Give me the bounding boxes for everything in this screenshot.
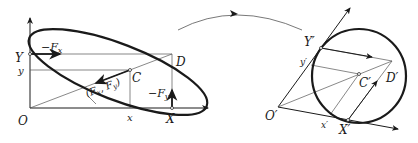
affine-ellipse-diagram: O Y y x X D C −Fx −Fy (Fx, Fy)	[0, 0, 418, 143]
label-x-prime-point: X′	[338, 123, 351, 137]
label-force-neg-fx: −Fx	[41, 41, 63, 55]
label-origin: O	[18, 114, 28, 128]
label-d-prime: D′	[385, 71, 399, 85]
label-y-prime-point: Y′	[304, 35, 315, 49]
arc-arrowhead-icon	[230, 10, 238, 17]
label-c: C	[132, 71, 141, 85]
label-x-coord: x	[127, 112, 133, 123]
label-y-coord: y	[17, 65, 24, 76]
label-force-neg-fy: −Fy	[148, 87, 170, 101]
label-x-point: X	[165, 112, 175, 126]
transform-arc-arrow	[178, 15, 302, 30]
right-figure: O′ Y′ y′ x′ X′ D′ C′	[265, 8, 406, 137]
ellipse	[19, 12, 216, 132]
left-figure: O Y y x X D C −Fx −Fy (Fx, Fy)	[15, 12, 217, 132]
label-o-prime: O′	[265, 109, 278, 123]
label-x-prime-coord: x′	[321, 120, 328, 130]
force-vec-arrow	[96, 70, 130, 83]
line-yp-cp	[311, 65, 359, 74]
label-c-prime: C′	[359, 76, 371, 90]
label-y-point: Y	[15, 51, 24, 65]
label-y-prime-coord: y′	[299, 57, 307, 67]
force-arrow-yp	[321, 48, 372, 57]
label-d: D	[175, 55, 186, 69]
